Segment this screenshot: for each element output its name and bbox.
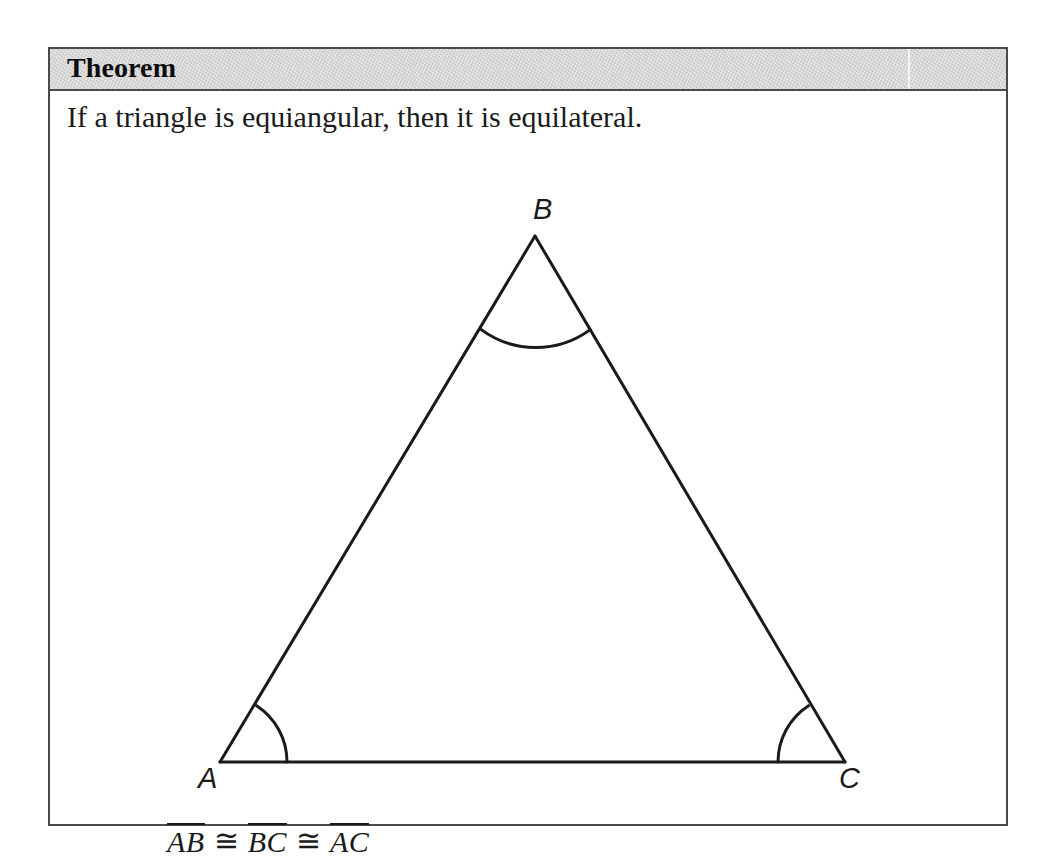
vertex-label-A: A xyxy=(198,764,217,793)
theorem-title: Theorem xyxy=(67,52,176,84)
side-AB xyxy=(220,236,535,762)
vertex-label-C: C xyxy=(839,764,860,793)
congruence-operator-1: ≅ xyxy=(205,823,248,858)
segment-AC: AC xyxy=(330,823,369,858)
theorem-box: Theorem If a triangle is equiangular, th… xyxy=(48,47,1008,826)
angle-arc-B xyxy=(481,329,590,347)
side-BC xyxy=(535,236,845,762)
theorem-header-band: Theorem xyxy=(50,49,1006,91)
angle-arc-C xyxy=(778,706,809,762)
angle-arc-A xyxy=(257,706,287,762)
vertex-label-B: B xyxy=(533,195,552,224)
congruence-statement: AB ≅ BC ≅ AC xyxy=(167,823,369,859)
theorem-statement-text: If a triangle is equiangular, then it is… xyxy=(67,100,642,134)
segment-AB: AB xyxy=(167,823,205,858)
triangle-diagram-svg xyxy=(50,139,1006,799)
congruence-operator-2: ≅ xyxy=(287,823,330,858)
segment-BC: BC xyxy=(248,823,287,858)
triangle-figure: A B C AB ≅ BC ≅ AC xyxy=(50,139,1006,824)
header-divider xyxy=(908,49,910,89)
